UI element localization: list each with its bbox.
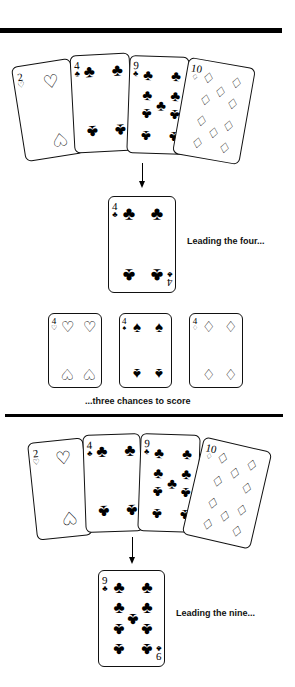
diamond-icon: ♢ [192, 325, 198, 332]
diamond-icon: ♢ [221, 117, 236, 134]
diamond-icon: ♢ [190, 134, 205, 151]
diamond-icon: ♢ [209, 473, 225, 491]
top-divider [0, 28, 282, 33]
club-icon: ♣ [113, 641, 124, 658]
heart-icon: ♡ [61, 367, 74, 382]
diamond-icon: ♢ [201, 69, 216, 86]
club-icon: ♣ [127, 611, 138, 628]
club-icon: ♣ [141, 129, 151, 144]
card-four-of-hearts: 4♡ ♡ ♡ ♡ ♡ [48, 313, 102, 388]
club-icon: ♣ [114, 121, 126, 139]
club-icon: ♣ [126, 502, 138, 519]
lead-card-nine-of-clubs: 9♣ ♣ ♣ ♣ ♣ ♣ ♣ ♣ ♣ ♣ 9♣ [98, 570, 165, 667]
diamond-icon: ♢ [205, 125, 220, 142]
club-icon: ♣ [102, 585, 108, 593]
heart-icon: ♡ [83, 367, 96, 382]
down-arrow-icon [132, 537, 133, 559]
diamond-icon: ♢ [229, 522, 245, 540]
diamond-icon: ♢ [202, 319, 215, 334]
heart-icon: ♡ [83, 319, 96, 334]
club-icon: ♣ [154, 445, 164, 460]
lead-caption: Leading the nine... [176, 608, 255, 618]
heart-icon: ♡ [55, 449, 73, 469]
club-icon: ♣ [113, 599, 124, 616]
lead-card-four-of-clubs: 4♣ ♣ ♣ ♣ ♣ 4♣ [108, 196, 176, 293]
heart-icon: ♡ [33, 458, 41, 467]
club-icon: ♣ [113, 621, 124, 638]
club-icon: ♣ [133, 70, 139, 78]
club-icon: ♣ [141, 579, 152, 596]
club-icon: ♣ [156, 97, 166, 112]
diamond-icon: ♢ [215, 449, 231, 467]
spade-icon: ♠ [133, 319, 141, 334]
section-divider [5, 414, 283, 417]
club-icon: ♣ [83, 63, 95, 81]
club-icon: ♣ [96, 443, 108, 460]
club-icon: ♣ [170, 88, 180, 103]
club-icon: ♣ [141, 107, 151, 122]
club-icon: ♣ [141, 621, 152, 638]
chances-caption: ...three chances to score [85, 396, 191, 406]
diamond-icon: ♢ [213, 83, 228, 100]
heart-icon: ♡ [17, 81, 25, 90]
club-icon: ♣ [152, 507, 162, 522]
diamond-icon: ♢ [217, 139, 232, 156]
diamond-icon: ♢ [199, 516, 215, 534]
diamond-icon: ♢ [202, 367, 215, 382]
spade-icon: ♠ [155, 319, 163, 334]
club-icon: ♣ [143, 67, 153, 82]
club-icon: ♣ [144, 448, 150, 456]
club-icon: ♣ [151, 204, 163, 223]
club-icon: ♣ [123, 204, 135, 223]
club-icon: ♣ [87, 450, 93, 458]
card-four-of-clubs: 4♣ ♣ ♣ ♣ ♣ [82, 433, 143, 533]
club-icon: ♣ [171, 68, 181, 83]
diamond-icon: ♢ [197, 91, 212, 108]
club-icon: ♣ [112, 211, 118, 219]
club-icon: ♣ [123, 266, 135, 285]
diamond-icon: ♢ [244, 456, 260, 474]
card-four-of-clubs: 4♣ ♣ ♣ ♣ ♣ [69, 52, 134, 153]
club-icon: ♣ [167, 475, 177, 490]
club-icon: ♣ [181, 466, 191, 481]
diamond-icon: ♢ [217, 507, 233, 525]
diamond-icon: ♢ [234, 501, 250, 519]
diamond-icon: ♢ [193, 112, 208, 129]
club-icon: ♣ [124, 442, 136, 459]
club-icon: ♣ [152, 485, 162, 500]
club-icon: ♣ [151, 266, 163, 285]
diamond-icon: ♢ [229, 74, 244, 91]
diamond-icon: ♢ [204, 494, 220, 512]
heart-icon: ♡ [61, 508, 79, 528]
diamond-icon: ♢ [203, 452, 216, 462]
spade-icon: ♠ [133, 367, 141, 382]
heart-icon: ♡ [61, 319, 74, 334]
club-icon: ♣ [141, 599, 152, 616]
heart-icon: ♡ [41, 72, 60, 92]
spade-icon: ♠ [155, 367, 163, 382]
club-icon: ♣ [156, 644, 162, 652]
diamond-icon: ♢ [239, 480, 255, 498]
club-icon: ♣ [153, 465, 163, 480]
club-icon: ♣ [111, 61, 123, 79]
club-icon: ♣ [74, 70, 80, 78]
diamond-icon: ♢ [224, 367, 237, 382]
lead-caption: Leading the four... [187, 236, 265, 246]
club-icon: ♣ [86, 123, 98, 141]
diamond-icon: ♢ [225, 96, 240, 113]
club-icon: ♣ [182, 446, 192, 461]
diamond-icon: ♢ [227, 464, 243, 482]
card-four-of-diamonds: 4♢ ♢ ♢ ♢ ♢ [189, 313, 243, 388]
down-arrow-icon [142, 163, 143, 183]
club-icon: ♣ [167, 270, 173, 278]
diamond-icon: ♢ [224, 319, 237, 334]
club-icon: ♣ [141, 641, 152, 658]
heart-icon: ♡ [50, 129, 69, 149]
heart-icon: ♡ [51, 325, 57, 332]
spade-icon: ♠ [122, 325, 127, 332]
club-icon: ♣ [142, 87, 152, 102]
club-icon: ♣ [113, 579, 124, 596]
card-four-of-spades: 4♠ ♠ ♠ ♠ ♠ [119, 313, 172, 388]
club-icon: ♣ [98, 503, 110, 520]
